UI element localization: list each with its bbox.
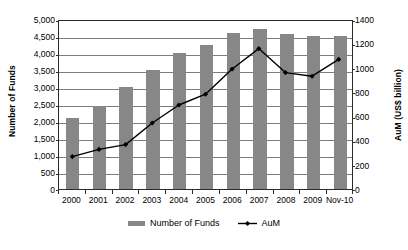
right-axis-tickmark bbox=[352, 142, 355, 143]
right-axis-tickmark bbox=[352, 93, 355, 94]
legend-entry: Number of Funds bbox=[128, 219, 220, 228]
left-axis-tick-label: 0 bbox=[50, 186, 55, 195]
aum-data-point bbox=[96, 147, 101, 152]
x-axis-tickmark bbox=[85, 190, 86, 194]
chart-legend: Number of FundsAuM bbox=[0, 219, 408, 228]
left-axis-tick-label: 4,500 bbox=[34, 33, 55, 42]
right-axis-tick-label: 1000 bbox=[355, 65, 374, 74]
legend-entry: AuM bbox=[238, 219, 281, 228]
right-axis-tick-labels: 0200400600800100012001400 bbox=[355, 20, 389, 190]
legend-label: AuM bbox=[262, 219, 281, 228]
legend-line-diamond-icon bbox=[238, 219, 257, 228]
right-axis-tick-label: 200 bbox=[355, 162, 369, 171]
right-axis-tick-label: 1400 bbox=[355, 16, 374, 25]
right-axis-tickmark bbox=[352, 118, 355, 119]
aum-data-point bbox=[70, 154, 75, 159]
left-axis-tick-label: 3,500 bbox=[34, 67, 55, 76]
right-axis-tickmark bbox=[352, 21, 355, 22]
legend-bar-swatch-icon bbox=[128, 221, 145, 226]
left-axis-tick-label: 3,000 bbox=[34, 84, 55, 93]
left-axis-tick-label: 1,000 bbox=[34, 152, 55, 161]
aum-markers bbox=[70, 46, 342, 159]
left-axis-tick-label: 1,500 bbox=[34, 135, 55, 144]
caption-bleed-strip bbox=[0, 240, 408, 250]
line-series-aum bbox=[59, 21, 352, 189]
x-axis-tickmark bbox=[299, 190, 300, 194]
plot-area bbox=[58, 20, 353, 190]
right-axis-title: AuM (US$ billion) bbox=[393, 40, 403, 170]
x-axis-tick-labels: 2000200120022003200420052006200720082009… bbox=[52, 195, 362, 209]
x-axis-tickmark bbox=[219, 190, 220, 194]
left-axis-tick-labels: 05001,0001,5002,0002,5003,0003,5004,0004… bbox=[14, 20, 55, 190]
x-axis-tick-label: Nov-10 bbox=[323, 195, 356, 205]
right-axis-tickmark bbox=[352, 166, 355, 167]
x-axis-tickmark bbox=[273, 190, 274, 194]
left-axis-tick-label: 500 bbox=[41, 169, 55, 178]
x-axis-tickmark bbox=[352, 190, 353, 194]
x-axis-tickmark bbox=[246, 190, 247, 194]
x-axis-tickmark bbox=[192, 190, 193, 194]
right-axis-tick-label: 1200 bbox=[355, 40, 374, 49]
chart-figure: Number of Funds AuM (US$ billion) 05001,… bbox=[0, 0, 408, 250]
right-axis-tickmark bbox=[352, 45, 355, 46]
right-axis-tickmark bbox=[352, 69, 355, 70]
x-axis-tickmark bbox=[138, 190, 139, 194]
x-axis-tickmark bbox=[326, 190, 327, 194]
left-axis-tick-label: 4,000 bbox=[34, 50, 55, 59]
left-axis-tick-label: 2,000 bbox=[34, 118, 55, 127]
right-axis-tick-label: 400 bbox=[355, 137, 369, 146]
x-axis-tickmark bbox=[112, 190, 113, 194]
aum-line-path bbox=[72, 49, 338, 157]
left-axis-tick-label: 5,000 bbox=[34, 16, 55, 25]
right-axis-tick-label: 600 bbox=[355, 113, 369, 122]
x-axis-tickmark bbox=[58, 190, 59, 194]
left-axis-tick-label: 2,500 bbox=[34, 101, 55, 110]
right-axis-tick-label: 800 bbox=[355, 89, 369, 98]
x-axis-tickmark bbox=[165, 190, 166, 194]
right-axis-tick-label: 0 bbox=[355, 186, 360, 195]
legend-label: Number of Funds bbox=[150, 219, 220, 228]
